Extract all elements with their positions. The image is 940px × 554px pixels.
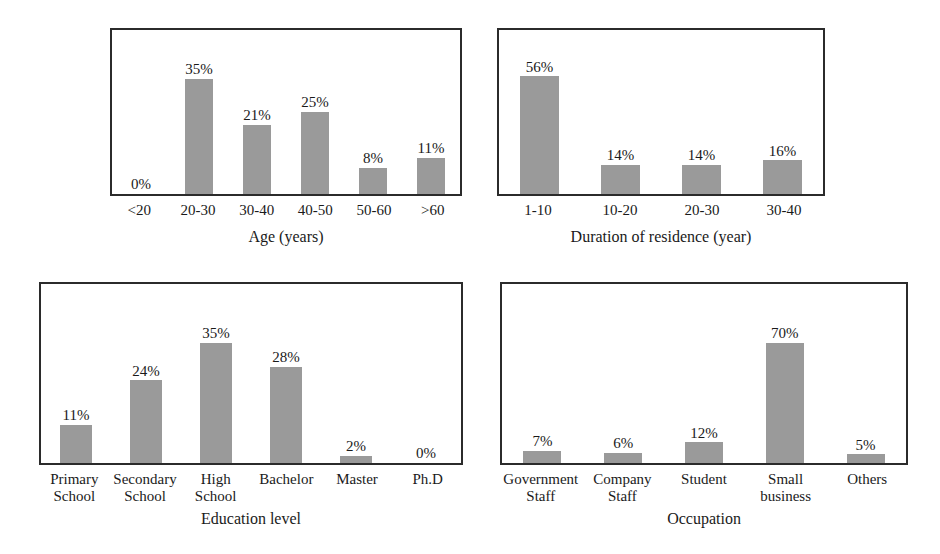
bar: 8% (359, 168, 386, 194)
bar-value-label: 2% (346, 439, 366, 455)
bar-slot: 14% (580, 30, 661, 194)
x-tick-label: Bachelor (251, 471, 322, 505)
bar: 21% (243, 125, 270, 194)
bar-series-residence: 56% 14% 14% 16% (499, 30, 823, 194)
bar-slot: 2% (321, 284, 391, 463)
bar-value-label: 8% (363, 151, 383, 167)
bar: 16% (763, 160, 801, 194)
bar: 25% (301, 112, 328, 194)
bar-slot: 0% (391, 284, 461, 463)
bar-value-label: 7% (532, 434, 552, 450)
x-tick-labels-education: Primary School Secondary School High Sch… (39, 471, 463, 505)
x-tick-label: 40-50 (286, 202, 345, 219)
bar-slot: 8% (344, 30, 402, 194)
bar-value-label: 21% (243, 108, 271, 124)
x-tick-label: >60 (403, 202, 462, 219)
bar-slot: 6% (583, 284, 664, 463)
x-tick-label: Company Staff (582, 471, 664, 505)
x-tick-label: 20-30 (661, 202, 743, 219)
bar-slot: 21% (228, 30, 286, 194)
bar: 35% (185, 79, 212, 194)
bar-value-label: 0% (131, 177, 151, 193)
x-tick-label: 50-60 (345, 202, 404, 219)
plot-area-residence: 56% 14% 14% 16% (497, 28, 825, 196)
bar-slot: 12% (664, 284, 745, 463)
bar-value-label: 0% (416, 446, 436, 462)
bar-value-label: 35% (202, 326, 230, 342)
plot-area-occupation: 7% 6% 12% 70% (500, 282, 908, 465)
bar-series-education: 11% 24% 35% 28% (41, 284, 461, 463)
x-tick-label: 10-20 (579, 202, 661, 219)
bar: 24% (130, 380, 163, 463)
bar: 2% (340, 456, 373, 463)
bar-slot: 7% (502, 284, 583, 463)
plot-area-age: 0% 35% 21% 25% (110, 28, 462, 196)
bar-slot: 11% (41, 284, 111, 463)
x-tick-label: Master (322, 471, 393, 505)
bar-value-label: 16% (769, 144, 797, 160)
x-axis-title-occupation: Occupation (500, 510, 908, 528)
x-tick-label: High School (180, 471, 251, 505)
bar-value-label: 11% (63, 408, 90, 424)
bar: 14% (601, 165, 639, 194)
bar-value-label: 14% (607, 148, 635, 164)
bar-value-label: 35% (185, 62, 213, 78)
bar-value-label: 70% (771, 326, 799, 342)
bar-slot: 28% (251, 284, 321, 463)
bar-slot: 35% (170, 30, 228, 194)
x-tick-label: 30-40 (227, 202, 286, 219)
x-axis-title-residence: Duration of residence (year) (497, 228, 825, 246)
bar-slot: 35% (181, 284, 251, 463)
figure-bar-chart-grid: 0% 35% 21% 25% (0, 0, 940, 554)
x-tick-labels-residence: 1-10 10-20 20-30 30-40 (497, 202, 825, 219)
bar-slot: 14% (661, 30, 742, 194)
bar: 14% (682, 165, 720, 194)
x-tick-labels-age: <20 20-30 30-40 40-50 50-60 >60 (110, 202, 462, 219)
bar-value-label: 56% (526, 60, 554, 76)
bar-slot: 70% (744, 284, 825, 463)
bar: 56% (520, 76, 558, 194)
bar-value-label: 11% (418, 141, 445, 157)
x-tick-label: Others (826, 471, 908, 505)
bar-slot: 24% (111, 284, 181, 463)
bar-value-label: 12% (690, 426, 718, 442)
bar: 12% (685, 442, 723, 463)
bar: 11% (417, 158, 444, 194)
bar-slot: 11% (402, 30, 460, 194)
bar-series-occupation: 7% 6% 12% 70% (502, 284, 906, 463)
x-tick-label: Student (663, 471, 745, 505)
bar-slot: 16% (742, 30, 823, 194)
bar-value-label: 24% (132, 364, 160, 380)
bar: 11% (60, 425, 93, 463)
bar: 28% (270, 367, 303, 463)
bar: 35% (200, 343, 233, 463)
bar-value-label: 25% (301, 95, 329, 111)
bar-value-label: 28% (272, 350, 300, 366)
x-tick-label: Primary School (39, 471, 110, 505)
x-axis-title-age: Age (years) (110, 228, 462, 246)
bar: 5% (847, 454, 885, 463)
bar: 70% (766, 343, 804, 463)
bar-slot: 0% (112, 30, 170, 194)
bar-slot: 25% (286, 30, 344, 194)
bar-series-age: 0% 35% 21% 25% (112, 30, 460, 194)
bar-value-label: 14% (688, 148, 716, 164)
x-tick-label: Small business (745, 471, 827, 505)
bar-slot: 56% (499, 30, 580, 194)
bar: 7% (523, 451, 561, 463)
x-tick-label: Secondary School (110, 471, 181, 505)
x-tick-labels-occupation: Government Staff Company Staff Student S… (500, 471, 908, 505)
bar-slot: 5% (825, 284, 906, 463)
x-axis-title-education: Education level (39, 510, 463, 528)
x-tick-label: Government Staff (500, 471, 582, 505)
x-tick-label: 20-30 (169, 202, 228, 219)
x-tick-label: 30-40 (743, 202, 825, 219)
bar-value-label: 6% (613, 436, 633, 452)
x-tick-label: <20 (110, 202, 169, 219)
x-tick-label: 1-10 (497, 202, 579, 219)
bar: 6% (604, 453, 642, 463)
plot-area-education: 11% 24% 35% 28% (39, 282, 463, 465)
x-tick-label: Ph.D (392, 471, 463, 505)
bar-value-label: 5% (856, 438, 876, 454)
